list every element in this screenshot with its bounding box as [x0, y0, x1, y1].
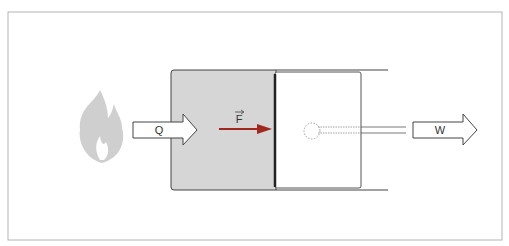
- force-label: F: [236, 113, 243, 125]
- piston: [275, 72, 361, 188]
- heat-engine-diagram: Q F W: [0, 0, 509, 246]
- heat-label: Q: [155, 124, 164, 136]
- work-label: W: [435, 124, 446, 136]
